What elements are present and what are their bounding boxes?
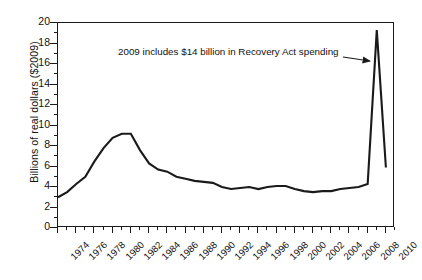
x-tick-label: 1982: [141, 239, 164, 262]
x-tick-label: 2004: [341, 239, 364, 262]
x-tick-label: 1996: [269, 239, 292, 262]
x-tick-label: 1976: [86, 239, 109, 262]
x-tick-label: 1998: [287, 239, 310, 262]
x-tick-label: 1988: [196, 239, 219, 262]
x-tick-label: 2000: [305, 239, 328, 262]
x-axis-tick-labels: 1974197619781980198219841986198819901992…: [0, 0, 422, 280]
x-tick-label: 2002: [323, 239, 346, 262]
x-tick-label: 1992: [232, 239, 255, 262]
x-tick-label: 1978: [105, 239, 128, 262]
x-tick-label: 2006: [360, 239, 383, 262]
x-tick-label: 2010: [396, 239, 419, 262]
x-tick-label: 1994: [250, 239, 273, 262]
x-tick-label: 1984: [159, 239, 182, 262]
x-tick-label: 1990: [214, 239, 237, 262]
x-tick-label: 2008: [378, 239, 401, 262]
x-tick-label: 1980: [123, 239, 146, 262]
x-tick-label: 1986: [178, 239, 201, 262]
x-tick-label: 1974: [68, 239, 91, 262]
chart-figure: Billions of real dollars ($2009) 2018161…: [0, 0, 422, 280]
annotation-recovery-act: 2009 includes $14 billion in Recovery Ac…: [118, 46, 339, 57]
